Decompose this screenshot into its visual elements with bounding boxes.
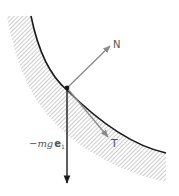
surface-hatch [7, 16, 166, 182]
gravity-label-sub: 1 [61, 143, 65, 150]
gravity-label: −mge1 [29, 138, 65, 150]
mass-point [65, 86, 70, 91]
normal-label: N [113, 39, 120, 50]
tangent-label: T [110, 137, 118, 150]
free-body-diagram: N T −mge1 [0, 0, 179, 196]
normal-vector [67, 46, 110, 88]
gravity-label-mg: mg [37, 138, 53, 149]
gravity-label-sign: − [29, 138, 37, 149]
